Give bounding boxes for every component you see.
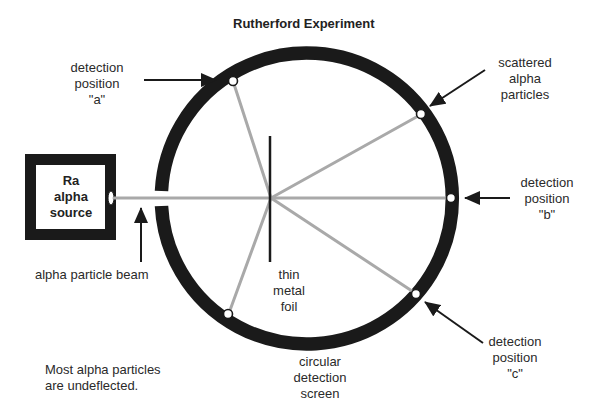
path-to-bottom xyxy=(229,198,271,313)
label-line: detection xyxy=(480,334,550,350)
note-undeflected: Most alpha particles are undeflected. xyxy=(45,362,161,394)
label-line: detection xyxy=(285,370,355,386)
note-line: are undeflected. xyxy=(45,378,161,394)
label-line: foil xyxy=(272,299,306,315)
arrow-scattered xyxy=(430,70,485,106)
label-line: "a" xyxy=(62,92,132,108)
path-to-a xyxy=(233,81,271,198)
label-line: detection xyxy=(512,175,582,191)
label-detection-c: detection position "c" xyxy=(480,334,550,382)
alpha-source-label: Ra alpha source xyxy=(44,173,98,221)
label-line: scattered xyxy=(490,55,560,71)
source-line-3: source xyxy=(44,205,98,221)
path-to-scattered xyxy=(271,115,420,198)
source-line-1: Ra xyxy=(44,173,98,189)
label-detection-a: detection position "a" xyxy=(62,60,132,108)
label-circular-detection-screen: circular detection screen xyxy=(285,354,355,402)
label-line: screen xyxy=(285,386,355,402)
label-thin-metal-foil: thin metal foil xyxy=(272,267,306,315)
label-line: thin xyxy=(272,267,306,283)
label-line: alpha xyxy=(490,71,560,87)
label-line: position xyxy=(480,350,550,366)
label-detection-b: detection position "b" xyxy=(512,175,582,223)
detection-dot-bottom xyxy=(224,310,233,319)
detection-dot-a xyxy=(229,77,238,86)
diagram-title: Rutherford Experiment xyxy=(233,16,375,31)
note-line: Most alpha particles xyxy=(45,362,161,378)
label-scattered-particles: scattered alpha particles xyxy=(490,55,560,103)
source-line-2: alpha xyxy=(44,189,98,205)
label-alpha-particle-beam: alpha particle beam xyxy=(35,267,148,283)
label-line: metal xyxy=(272,283,306,299)
detection-dot-b xyxy=(447,194,456,203)
label-line: "c" xyxy=(480,366,550,382)
label-line: circular xyxy=(285,354,355,370)
detection-dot-c xyxy=(412,290,421,299)
label-line: detection xyxy=(62,60,132,76)
label-line: position xyxy=(512,191,582,207)
detection-dot-scattered xyxy=(417,110,426,119)
label-line: particles xyxy=(490,87,560,103)
label-line: position xyxy=(62,76,132,92)
label-line: "b" xyxy=(512,207,582,223)
arrow-c xyxy=(425,302,483,343)
